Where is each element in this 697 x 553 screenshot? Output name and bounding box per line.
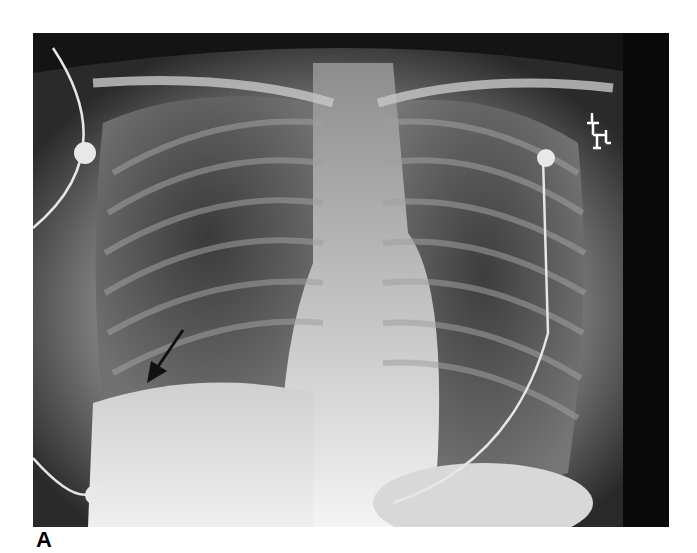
panel-label: A — [36, 528, 52, 552]
xray-graphic — [33, 33, 669, 527]
chest-xray-image — [33, 33, 669, 527]
